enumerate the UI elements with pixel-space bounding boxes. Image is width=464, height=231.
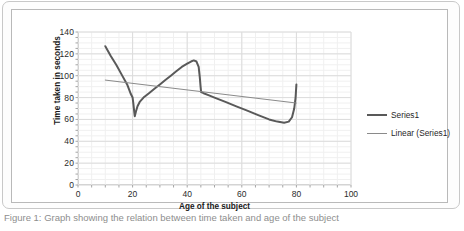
figure-root: Time taken in seconds 020406080100120140…	[0, 0, 464, 231]
y-axis-tick-labels: 020406080100120140	[26, 32, 74, 185]
y-tick-label: 40	[30, 137, 74, 145]
y-tick-label: 60	[30, 115, 74, 123]
x-tick-label: 40	[172, 190, 202, 199]
plot-area-wrapper	[78, 32, 351, 185]
y-tick-label: 0	[30, 181, 74, 189]
y-tick-label: 100	[30, 72, 74, 80]
figure-caption-text: Figure 1: Graph showing the relation bet…	[4, 214, 339, 223]
legend-item-series1[interactable]: Series1	[367, 106, 463, 124]
x-axis-tick-labels: 020406080100	[78, 190, 351, 202]
legend-trendline-swatch-icon	[367, 129, 387, 137]
y-tick-label: 120	[30, 50, 74, 58]
y-tick-label: 140	[30, 28, 74, 36]
chart-legend[interactable]: Series1 Linear (Series1)	[367, 106, 463, 142]
x-tick-label: 20	[118, 190, 148, 199]
y-tick-label: 20	[30, 159, 74, 167]
legend-label-trendline: Linear (Series1)	[391, 128, 450, 138]
minor-gridlines	[78, 32, 351, 185]
x-tick-label: 0	[63, 190, 93, 199]
chart-object-frame[interactable]: Time taken in seconds 020406080100120140…	[11, 9, 448, 203]
legend-label-series1: Series1	[391, 110, 419, 120]
x-tick-label: 60	[227, 190, 257, 199]
x-tick-label: 100	[336, 190, 366, 199]
y-tick-label: 80	[30, 94, 74, 102]
x-axis-title: Age of the subject	[78, 202, 351, 211]
chart-canvas	[78, 32, 351, 185]
figure-caption-clipped: Figure 1: Graph showing the relation bet…	[4, 214, 460, 231]
legend-line-swatch-icon	[367, 111, 387, 119]
x-tick-label: 80	[281, 190, 311, 199]
legend-item-trendline[interactable]: Linear (Series1)	[367, 124, 463, 142]
